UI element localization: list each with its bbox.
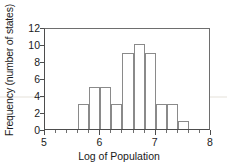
y-axis-tick-label: 0 [22, 125, 40, 135]
plot-area [44, 28, 210, 130]
histogram-bar [145, 53, 156, 130]
x-axis-tick-label: 7 [145, 136, 165, 148]
y-axis-tick-label: 4 [22, 91, 40, 101]
histogram-bar [178, 121, 189, 130]
y-axis-tick-label: 8 [22, 57, 40, 67]
x-axis-tick-label: 6 [89, 136, 109, 148]
y-axis-tick-label: 6 [22, 74, 40, 84]
x-axis-minor-tick [188, 130, 189, 133]
histogram-bar [122, 53, 133, 130]
y-axis-tick-label: 2 [22, 108, 40, 118]
x-axis-minor-tick [199, 130, 200, 133]
histogram-bar [89, 87, 100, 130]
x-axis-minor-tick [121, 130, 122, 133]
x-axis-major-tick [99, 130, 100, 135]
histogram-bar [167, 104, 178, 130]
x-axis-minor-tick [166, 130, 167, 133]
histogram-bar [156, 104, 167, 130]
y-axis-tick-label: 12 [22, 23, 40, 33]
x-axis-minor-tick [133, 130, 134, 133]
histogram-bar [134, 44, 145, 129]
x-axis-major-tick [44, 130, 45, 135]
x-axis-minor-tick [55, 130, 56, 133]
histogram-bars [45, 29, 209, 129]
histogram-bar [78, 104, 89, 130]
histogram-bar [111, 104, 122, 130]
x-axis-major-tick [155, 130, 156, 135]
x-axis-minor-tick [144, 130, 145, 133]
x-axis-major-tick [210, 130, 211, 135]
x-axis-minor-tick [177, 130, 178, 133]
x-axis-minor-tick [110, 130, 111, 133]
x-axis-minor-tick [77, 130, 78, 133]
y-axis-title-text: Frequency (number of states) [3, 4, 15, 136]
x-axis-minor-tick [66, 130, 67, 133]
x-axis-title: Log of Population [24, 150, 214, 162]
x-axis-minor-tick [88, 130, 89, 133]
histogram-bar [100, 87, 111, 130]
y-axis-tick-label: 10 [22, 40, 40, 50]
x-axis-tick-label: 5 [34, 136, 54, 148]
histogram-figure: Frequency (number of states) 024681012 5… [0, 0, 227, 168]
y-axis-title: Frequency (number of states) [0, 0, 18, 140]
x-axis-tick-label: 8 [200, 136, 220, 148]
x-axis-tick-labels: 5678 [44, 136, 210, 149]
